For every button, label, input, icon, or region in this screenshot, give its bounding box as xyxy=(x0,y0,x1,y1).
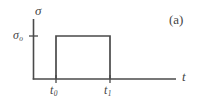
x-axis-label: t xyxy=(182,70,186,83)
x-axis-tick-label-t0: t0 xyxy=(50,84,58,96)
panel-label: (a) xyxy=(169,13,183,26)
sigma-zero-subscript: o xyxy=(19,34,23,43)
figure-panel-a: σ σo t0 t1 t (a) xyxy=(0,0,202,108)
y-axis-label: σ xyxy=(35,4,41,17)
t0-base: t xyxy=(50,83,53,97)
t1-subscript: 1 xyxy=(108,89,112,98)
t0-subscript: 0 xyxy=(54,89,58,98)
x-axis-tick-label-t1: t1 xyxy=(104,84,112,96)
t1-base: t xyxy=(104,83,107,97)
pulse-waveform xyxy=(56,36,110,79)
y-axis-tick-label-sigma-zero: σo xyxy=(13,29,23,41)
